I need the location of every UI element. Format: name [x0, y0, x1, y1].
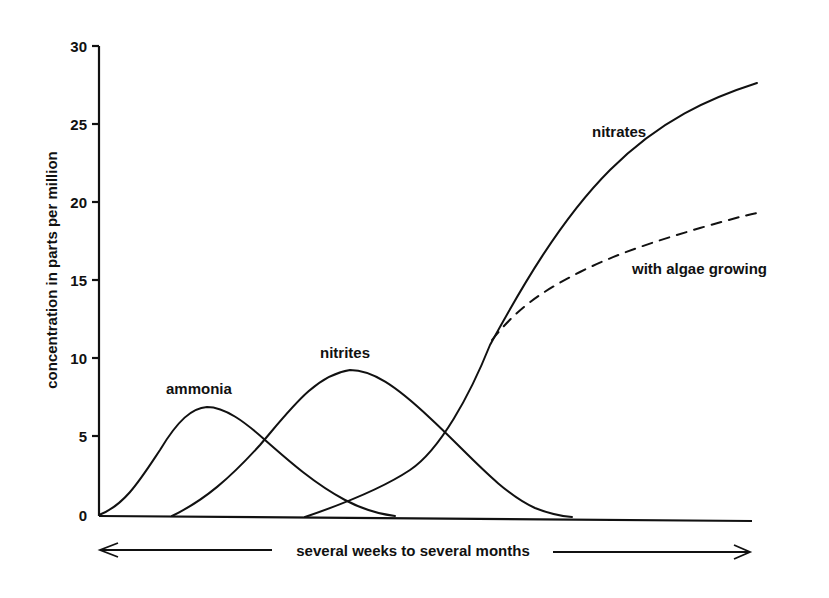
nitrogen-cycle-chart: 30 25 20 15 10 5 0 concentration in part… — [0, 0, 829, 598]
y-tick-labels: 30 25 20 15 10 5 0 — [70, 38, 87, 524]
y-tick-5: 5 — [79, 428, 87, 445]
y-tick-0: 0 — [79, 507, 87, 524]
nitrites-curve — [172, 370, 572, 517]
x-axis — [99, 516, 752, 521]
label-nitrites: nitrites — [320, 344, 370, 361]
y-tick-20: 20 — [70, 194, 87, 211]
nitrates-curve — [305, 83, 757, 517]
y-axis — [92, 46, 99, 516]
y-axis-label: concentration in parts per million — [43, 151, 60, 389]
label-with-algae-growing: with algae growing — [631, 260, 767, 277]
label-ammonia: ammonia — [166, 380, 233, 397]
x-axis-label: several weeks to several months — [296, 542, 529, 559]
y-tick-30: 30 — [70, 38, 87, 55]
label-nitrates: nitrates — [592, 123, 646, 140]
y-tick-25: 25 — [70, 116, 87, 133]
y-tick-10: 10 — [70, 350, 87, 367]
y-tick-15: 15 — [70, 272, 87, 289]
